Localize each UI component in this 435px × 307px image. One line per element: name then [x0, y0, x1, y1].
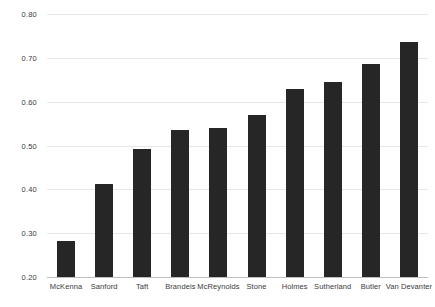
- x-axis-tick-label: Sanford: [91, 282, 118, 291]
- bar[interactable]: [171, 130, 189, 277]
- x-axis-tick-label: Stone: [246, 282, 266, 291]
- y-axis-tick-label: 0.20: [22, 273, 37, 282]
- x-axis-tick-label: Sutherland: [314, 282, 351, 291]
- x-axis-tick-label: Taft: [136, 282, 149, 291]
- bar[interactable]: [209, 128, 227, 277]
- x-axis-tick-label: Butler: [361, 282, 381, 291]
- bar[interactable]: [95, 184, 113, 277]
- x-axis-tick-label: Holmes: [282, 282, 308, 291]
- gridline: [47, 277, 428, 278]
- bar[interactable]: [324, 82, 342, 277]
- bar[interactable]: [400, 42, 418, 277]
- x-axis-tick-label: Brandeis: [165, 282, 195, 291]
- bar[interactable]: [362, 64, 380, 277]
- bar-slot: [314, 14, 352, 277]
- bar-slot: [352, 14, 390, 277]
- bar-slot: [276, 14, 314, 277]
- bar[interactable]: [133, 149, 151, 277]
- y-axis-tick-label: 0.30: [22, 229, 37, 238]
- x-axis-tick-label: McKenna: [50, 282, 82, 291]
- bar-slot: [123, 14, 161, 277]
- bar-chart: 0.200.300.400.500.600.700.80 McKennaSanf…: [0, 0, 435, 307]
- y-axis-tick-label: 0.50: [22, 141, 37, 150]
- bar-series: [47, 14, 428, 277]
- y-axis-tick-label: 0.80: [22, 10, 37, 19]
- x-axis-tick-label: Van Devanter: [386, 282, 433, 291]
- bar-slot: [199, 14, 237, 277]
- plot-area: [47, 14, 428, 277]
- bar[interactable]: [286, 89, 304, 277]
- bar-slot: [47, 14, 85, 277]
- bar[interactable]: [248, 115, 266, 277]
- x-axis: McKennaSanfordTaftBrandeisMcReynoldsSton…: [47, 279, 428, 301]
- bar-slot: [390, 14, 428, 277]
- bar-slot: [238, 14, 276, 277]
- y-axis-tick-label: 0.40: [22, 185, 37, 194]
- bar-slot: [85, 14, 123, 277]
- y-axis: 0.200.300.400.500.600.700.80: [0, 14, 42, 277]
- bar-slot: [161, 14, 199, 277]
- y-axis-tick-label: 0.70: [22, 53, 37, 62]
- x-axis-tick-label: McReynolds: [197, 282, 239, 291]
- bar[interactable]: [57, 241, 75, 277]
- y-axis-tick-label: 0.60: [22, 97, 37, 106]
